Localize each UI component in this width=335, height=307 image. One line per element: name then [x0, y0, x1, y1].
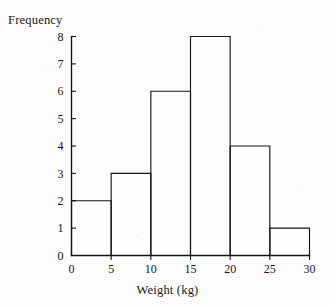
x-tick-label: 20: [224, 262, 236, 276]
y-tick-label: 4: [58, 139, 64, 153]
y-tick-label: 5: [58, 112, 64, 126]
x-tick-label: 0: [69, 262, 75, 276]
y-tick-label: 6: [58, 84, 64, 98]
x-axis-title: Weight (kg): [0, 283, 335, 298]
x-tick-label: 30: [304, 262, 316, 276]
histogram-bar: [270, 228, 310, 255]
histogram-bar: [191, 37, 231, 256]
x-tick-label: 10: [145, 262, 157, 276]
x-tick-label: 25: [264, 262, 276, 276]
y-tick-label: 8: [58, 30, 64, 44]
x-tick-label: 15: [185, 262, 197, 276]
y-tick-label: 2: [58, 194, 64, 208]
bars-group: [72, 37, 310, 256]
histogram-bar: [230, 146, 270, 256]
y-tick-labels: 012345678: [58, 30, 64, 263]
histogram-figure: Frequency 012345678 051015202530 Weight …: [0, 0, 335, 307]
y-tick-label: 0: [58, 249, 64, 263]
y-tick-label: 1: [58, 221, 64, 235]
plot-area: 012345678 051015202530: [0, 0, 335, 307]
y-tick-label: 3: [58, 167, 64, 181]
histogram-bar: [111, 173, 151, 255]
y-tick-label: 7: [58, 57, 64, 71]
x-tick-labels: 051015202530: [69, 262, 316, 276]
histogram-bar: [151, 91, 191, 255]
x-tick-label: 5: [108, 262, 114, 276]
histogram-bar: [72, 201, 112, 256]
